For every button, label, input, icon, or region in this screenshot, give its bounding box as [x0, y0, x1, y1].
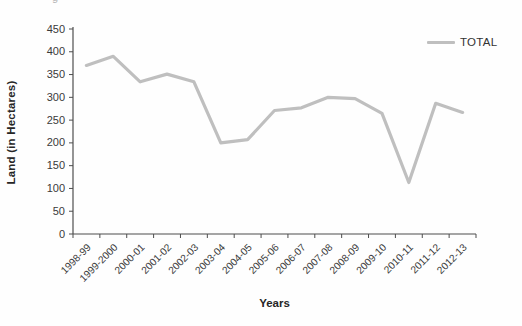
legend-label: TOTAL	[460, 36, 498, 48]
y-tick-label: 0	[59, 228, 65, 240]
y-tick-label: 200	[47, 136, 65, 148]
line-chart-figure: g 0501001502002503003504004501998-991999…	[0, 0, 522, 326]
x-tick-label: 2012-13	[435, 241, 469, 275]
y-tick-label: 250	[47, 114, 65, 126]
legend-line-swatch	[427, 41, 455, 44]
y-tick-label: 150	[47, 159, 65, 171]
y-axis-title: Land (in Hectares)	[5, 27, 20, 239]
x-axis-title: Years	[73, 297, 476, 309]
legend: TOTAL	[427, 36, 498, 48]
y-tick-label: 400	[47, 45, 65, 57]
y-tick-label: 50	[53, 205, 65, 217]
chart-canvas: 0501001502002503003504004501998-991999-2…	[0, 0, 522, 326]
y-tick-label: 350	[47, 68, 65, 80]
y-tick-label: 450	[47, 23, 65, 35]
y-tick-label: 300	[47, 91, 65, 103]
y-tick-label: 100	[47, 182, 65, 194]
series-line-total	[86, 56, 462, 182]
